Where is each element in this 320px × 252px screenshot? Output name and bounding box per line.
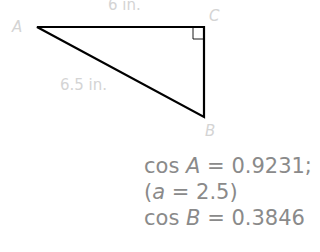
vertex-label-b: B: [205, 124, 215, 139]
vertex-label-a: A: [12, 20, 22, 35]
side-label-ab: 6.5 in.: [60, 78, 107, 93]
vertex-label-c: C: [209, 9, 219, 24]
triangle-abc: [37, 27, 204, 117]
equation-cos-b: cos B = 0.3846: [144, 205, 312, 231]
equation-cos-a: cos A = 0.9231;: [144, 153, 312, 179]
right-triangle: [0, 0, 320, 160]
equation-side-a: (a = 2.5): [144, 179, 312, 205]
right-angle-marker: [193, 27, 204, 39]
side-label-ac: 6 in.: [108, 0, 141, 13]
answer-equations: cos A = 0.9231; (a = 2.5) cos B = 0.3846: [144, 153, 312, 231]
